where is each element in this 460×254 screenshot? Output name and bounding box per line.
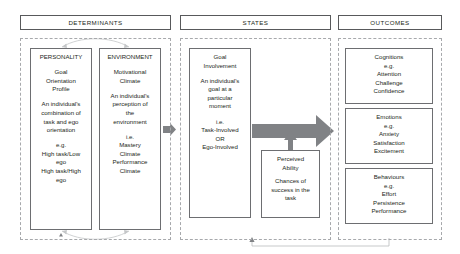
box-emotions: Emotions e.g. Anxiety Satisfaction Excit… <box>345 108 433 164</box>
box-emotions-examples: Anxiety Satisfaction Excitement <box>373 130 405 156</box>
box-behaviours: Behaviours e.g. Effort Persistence Perfo… <box>345 168 433 224</box>
diagram-canvas: DETERMINANTS STATES OUTCOMES PERSONALITY… <box>0 0 460 254</box>
box-behaviours-examples: Effort Persistence Performance <box>372 190 407 216</box>
box-goal-involvement-title: Goal Involvement <box>204 53 237 70</box>
box-emotions-examples-label: e.g. <box>384 122 394 131</box>
box-personality-concept: Goal Orientation Profile <box>46 68 76 94</box>
box-environment-concept: Motivational Climate <box>114 68 147 85</box>
box-environment-examples-label: i.e. <box>126 133 134 142</box>
box-environment: ENVIRONMENT Motivational Climate An indi… <box>99 48 161 230</box>
box-goal-involvement: Goal Involvement An individual's goal at… <box>189 48 251 218</box>
box-perceived-ability-definition: Chances of success in the task <box>271 177 310 203</box>
box-behaviours-examples-label: e.g. <box>384 182 394 191</box>
box-cognitions-examples-label: e.g. <box>384 62 394 71</box>
box-environment-title: ENVIRONMENT <box>107 53 152 62</box>
box-personality: PERSONALITY Goal Orientation Profile An … <box>30 48 92 230</box>
column-header-outcomes: OUTCOMES <box>338 15 442 30</box>
box-goal-involvement-examples: Task-Involved OR Ego-Involved <box>201 126 238 152</box>
box-personality-examples: High task/Low ego High task/High ego <box>41 150 81 184</box>
box-perceived-ability: Perceived Ability Chances of success in … <box>261 150 320 218</box>
box-cognitions-title: Cognitions <box>375 53 404 62</box>
column-header-states-label: STATES <box>243 19 269 26</box>
box-environment-definition: An individual's perception of the enviro… <box>111 92 150 126</box>
box-personality-examples-label: e.g. <box>56 141 66 150</box>
box-cognitions-examples: Attention Challenge Confidence <box>374 70 405 96</box>
box-personality-definition: An individual's combination of task and … <box>41 100 81 134</box>
column-header-outcomes-label: OUTCOMES <box>370 19 409 26</box>
box-goal-involvement-examples-label: i.e. <box>216 118 224 127</box>
column-header-states: STATES <box>180 15 331 30</box>
box-perceived-ability-title: Perceived Ability <box>277 155 304 172</box>
box-behaviours-title: Behaviours <box>374 173 405 182</box>
box-emotions-title: Emotions <box>376 113 401 122</box>
box-environment-examples: Mastery Climate Performance Climate <box>113 141 148 175</box>
box-goal-involvement-definition: An individual's goal at a particular mom… <box>201 77 240 111</box>
box-cognitions: Cognitions e.g. Attention Challenge Conf… <box>345 48 433 104</box>
column-header-determinants: DETERMINANTS <box>20 15 171 30</box>
box-personality-title: PERSONALITY <box>40 53 83 62</box>
column-header-determinants-label: DETERMINANTS <box>68 19 122 26</box>
